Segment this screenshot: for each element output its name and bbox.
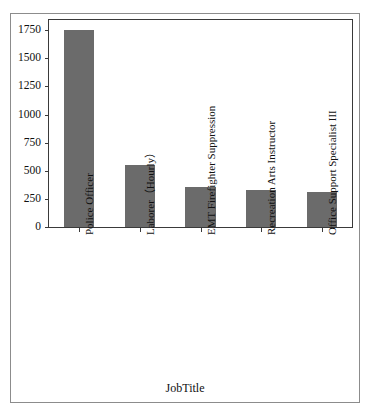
y-tick-mark xyxy=(45,143,49,144)
y-tick-mark xyxy=(45,58,49,59)
x-tick-label: Office Support Specialist III xyxy=(326,110,338,235)
y-tick-label: 250 xyxy=(24,191,41,206)
x-tick-label: Recreation Arts Instructor xyxy=(265,121,277,235)
y-tick-label: 750 xyxy=(24,135,41,150)
y-tick-label: 1000 xyxy=(18,107,41,122)
chart-figure: 02505007501000125015001750 JobTitle Poli… xyxy=(10,13,360,403)
x-tick-label: Laborer（Hourly） xyxy=(144,147,156,235)
x-tick-mark xyxy=(322,227,323,232)
x-tick-label: Police Officer xyxy=(83,173,95,235)
y-tick-mark xyxy=(45,171,49,172)
y-tick-label: 1250 xyxy=(18,78,41,93)
x-tick-label: EMT Firefighter Suppression xyxy=(205,106,217,235)
x-axis-title: JobTitle xyxy=(11,381,359,396)
x-tick-mark xyxy=(79,227,80,232)
y-tick-label: 1750 xyxy=(18,22,41,37)
y-tick-mark xyxy=(45,227,49,228)
y-tick-mark xyxy=(45,199,49,200)
x-tick-mark xyxy=(201,227,202,232)
x-tick-mark xyxy=(261,227,262,232)
x-tick-mark xyxy=(140,227,141,232)
y-tick-label: 500 xyxy=(24,163,41,178)
y-tick-mark xyxy=(45,86,49,87)
y-tick-label: 0 xyxy=(35,219,41,234)
y-tick-mark xyxy=(45,115,49,116)
y-tick-mark xyxy=(45,30,49,31)
y-tick-label: 1500 xyxy=(18,50,41,65)
